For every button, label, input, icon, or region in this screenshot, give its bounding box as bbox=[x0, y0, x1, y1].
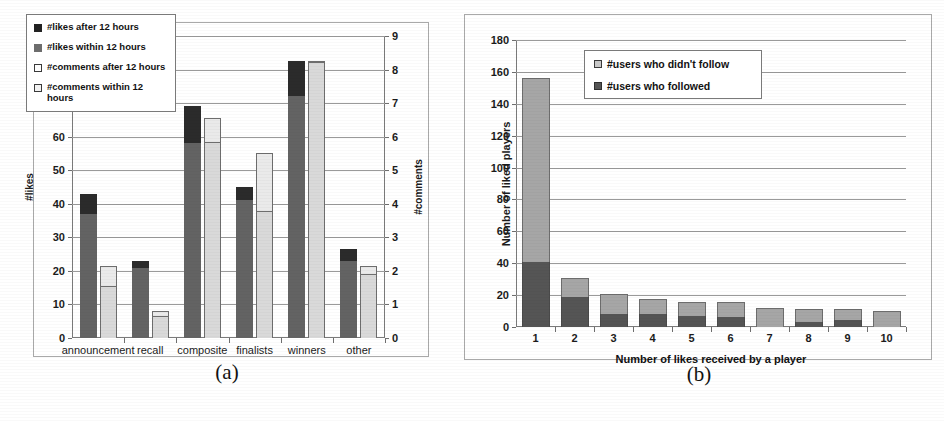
y-axis-secondary-tickmark bbox=[385, 237, 389, 238]
y-axis-secondary-tickmark bbox=[385, 36, 389, 37]
x-axis-category-label: 10 bbox=[880, 332, 892, 344]
panel-b: Number of liked players Number of likes … bbox=[454, 0, 944, 421]
legend-swatch-icon bbox=[34, 24, 42, 32]
legend-item-comments-within: #comments within 12 hours bbox=[34, 82, 169, 104]
bar-segment-didnt-follow bbox=[639, 299, 667, 314]
y-axis-secondary-tickmark bbox=[385, 204, 389, 205]
legend-item-likes-within: #likes within 12 hours bbox=[34, 42, 169, 53]
x-axis-category-label: 8 bbox=[805, 332, 811, 344]
y-axis-secondary-tickmark bbox=[385, 137, 389, 138]
bar-stacked bbox=[756, 308, 784, 327]
bar-segment-followed bbox=[717, 317, 745, 327]
y-axis-tickmark bbox=[68, 338, 72, 339]
bar-segment-didnt-follow bbox=[834, 309, 862, 319]
bar-segment-comments-after bbox=[360, 266, 377, 274]
bar-group: winners bbox=[281, 36, 333, 338]
x-axis-tickmark bbox=[633, 327, 634, 332]
legend-swatch-icon bbox=[594, 82, 602, 90]
bar-segment-followed bbox=[795, 322, 823, 327]
bar-segment-followed bbox=[600, 314, 628, 327]
x-axis-tickmark bbox=[229, 338, 230, 343]
bar-likes bbox=[236, 187, 253, 338]
legend-swatch-icon bbox=[34, 84, 42, 92]
bar-segment-likes-within bbox=[80, 214, 97, 338]
panel-a: #likes #comments 01020304050607080900123… bbox=[0, 0, 454, 421]
bar-segment-comments-after bbox=[256, 153, 273, 210]
x-axis-tickmark bbox=[867, 327, 868, 332]
x-axis-category-label: 6 bbox=[727, 332, 733, 344]
bar-stacked bbox=[834, 309, 862, 327]
bar-comments bbox=[308, 61, 325, 338]
bar-segment-comments-within bbox=[100, 286, 117, 338]
bar-group: 1 bbox=[516, 40, 555, 327]
caption-a: (a) bbox=[0, 360, 454, 385]
bar-comments bbox=[100, 266, 117, 338]
bar-group: 9 bbox=[828, 40, 867, 327]
bar-stacked bbox=[561, 278, 589, 327]
bar-segment-didnt-follow bbox=[756, 308, 784, 327]
x-axis-category-label: 5 bbox=[688, 332, 694, 344]
bar-segment-likes-within bbox=[236, 200, 253, 338]
bar-segment-likes-after bbox=[340, 249, 357, 261]
bar-stacked bbox=[717, 302, 745, 328]
bar-likes bbox=[132, 261, 149, 338]
bar-segment-likes-within bbox=[288, 96, 305, 338]
bar-segment-followed bbox=[522, 262, 550, 327]
bar-comments bbox=[256, 153, 273, 338]
x-axis-tickmark bbox=[789, 327, 790, 332]
x-axis-category-label: other bbox=[346, 344, 371, 356]
x-axis-tickmark bbox=[672, 327, 673, 332]
bar-segment-didnt-follow bbox=[561, 278, 589, 297]
x-axis-tickmark bbox=[750, 327, 751, 332]
bar-segment-likes-after bbox=[288, 61, 305, 96]
y-axis-secondary-tickmark bbox=[385, 304, 389, 305]
bar-segment-likes-within bbox=[340, 261, 357, 338]
bar-stacked bbox=[678, 302, 706, 327]
bar-stacked bbox=[522, 78, 550, 327]
bar-segment-didnt-follow bbox=[522, 78, 550, 261]
x-axis-category-label: 4 bbox=[649, 332, 655, 344]
bar-segment-didnt-follow bbox=[717, 302, 745, 318]
bar-segment-comments-after bbox=[100, 266, 117, 286]
x-axis-category-label: recall bbox=[137, 344, 163, 356]
bar-segment-likes-within bbox=[184, 143, 201, 338]
x-axis-category-label: 3 bbox=[610, 332, 616, 344]
x-axis-tickmark bbox=[711, 327, 712, 332]
bar-segment-comments-within bbox=[256, 211, 273, 339]
legend-label: #users who didn't follow bbox=[607, 58, 729, 70]
bar-group: 8 bbox=[789, 40, 828, 327]
bar-stacked bbox=[795, 309, 823, 327]
caption-b: (b) bbox=[454, 362, 944, 387]
bar-segment-followed bbox=[678, 316, 706, 327]
x-axis-category-label: 2 bbox=[571, 332, 577, 344]
bar-group: composite bbox=[176, 36, 228, 338]
bar-segment-comments-within bbox=[360, 274, 377, 338]
bar-segment-didnt-follow bbox=[873, 311, 901, 327]
bar-segment-comments-within bbox=[204, 142, 221, 338]
bar-group: 10 bbox=[867, 40, 906, 327]
chart-a-ylabel-secondary: #comments bbox=[414, 159, 425, 215]
bar-comments bbox=[360, 266, 377, 338]
y-axis-secondary-tickmark bbox=[385, 70, 389, 71]
legend-item-followed: #users who followed bbox=[594, 80, 755, 92]
x-axis-tickmark bbox=[176, 338, 177, 343]
bar-segment-comments-within bbox=[152, 316, 169, 338]
bar-segment-followed bbox=[561, 297, 589, 327]
legend-label: #comments within 12 hours bbox=[47, 82, 169, 104]
bar-likes bbox=[340, 249, 357, 338]
legend-swatch-icon bbox=[34, 64, 42, 72]
x-axis-tickmark bbox=[555, 327, 556, 332]
legend-item-likes-after: #likes after 12 hours bbox=[34, 22, 169, 33]
bar-segment-comments-within bbox=[308, 62, 325, 338]
y-axis-secondary-tickmark bbox=[385, 271, 389, 272]
bar-likes bbox=[80, 194, 97, 338]
chart-b-legend: #users who didn't follow #users who foll… bbox=[584, 50, 762, 99]
bar-segment-likes-within bbox=[132, 268, 149, 338]
x-axis-tickmark bbox=[594, 327, 595, 332]
legend-item-comments-after: #comments after 12 hours bbox=[34, 62, 169, 73]
bar-stacked bbox=[600, 294, 628, 327]
chart-a-legend: #likes after 12 hours #likes within 12 h… bbox=[26, 14, 176, 112]
bar-segment-didnt-follow bbox=[795, 309, 823, 322]
bar-segment-likes-after bbox=[132, 261, 149, 268]
bar-segment-didnt-follow bbox=[678, 302, 706, 316]
